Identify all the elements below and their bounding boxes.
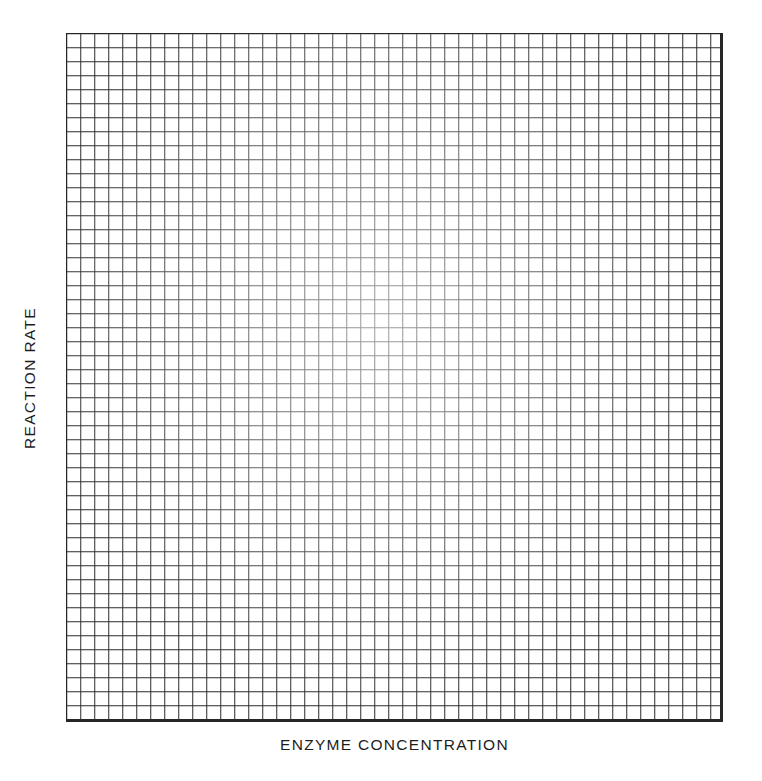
- y-axis-label: REACTION RATE: [0, 33, 60, 722]
- plot-area[interactable]: [66, 33, 723, 722]
- grid-lines: [67, 34, 722, 721]
- grid-border-bottom: [67, 719, 722, 721]
- grid-border-right: [720, 34, 722, 721]
- y-axis-label-text: REACTION RATE: [21, 306, 39, 448]
- x-axis-label: ENZYME CONCENTRATION: [66, 736, 723, 754]
- graph-figure: REACTION RATE ENZYME CONCENTRATION: [0, 0, 762, 781]
